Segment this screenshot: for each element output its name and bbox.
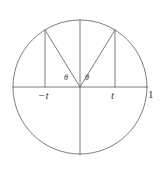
angle-label-theta-left: θ [64,74,68,82]
unit-circle-figure: −t t 1 θ θ [0,0,164,175]
axis-label-unit-one: 1 [148,89,154,100]
axis-label-positive-t: t [111,90,114,101]
figure-canvas [0,0,164,175]
angle-label-theta-right: θ [85,74,89,82]
axis-label-negative-t: −t [38,90,48,101]
left-radius-line [45,30,80,87]
